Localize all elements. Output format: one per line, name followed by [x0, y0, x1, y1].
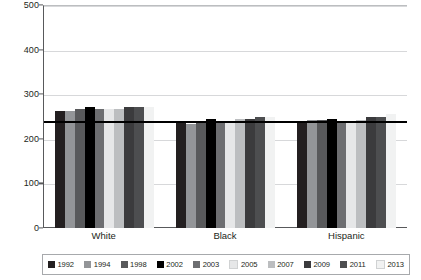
- x-axis-label-hispanic: Hispanic: [286, 230, 407, 241]
- x-axis-labels: WhiteBlackHispanic: [43, 230, 407, 241]
- bar-white-1998[interactable]: [75, 109, 85, 228]
- legend-label-1994: 1994: [94, 260, 111, 269]
- bar-white-1992[interactable]: [55, 111, 65, 228]
- legend-swatch-2005: [229, 260, 238, 269]
- plot-area: [43, 5, 407, 228]
- plot-inner: [44, 6, 407, 228]
- y-tick-label-200: 200: [0, 134, 39, 144]
- y-tick-label-500: 500: [0, 0, 39, 10]
- bar-hispanic-2007[interactable]: [356, 120, 366, 228]
- bar-hispanic-2009[interactable]: [366, 117, 376, 228]
- bar-white-2009[interactable]: [124, 107, 134, 228]
- legend-swatch-2002: [157, 261, 164, 268]
- bar-black-1994[interactable]: [186, 124, 196, 228]
- bar-black-2007[interactable]: [235, 119, 245, 228]
- y-tick-label-100: 100: [0, 178, 39, 188]
- legend-swatch-2007: [268, 261, 275, 268]
- bars-wrap: [297, 6, 396, 228]
- legend-swatch-2003: [193, 261, 200, 268]
- legend-item-2009[interactable]: 2009: [304, 260, 330, 269]
- bar-white-2003[interactable]: [95, 109, 105, 228]
- bars-wrap: [176, 6, 275, 228]
- bar-hispanic-1992[interactable]: [297, 123, 307, 228]
- bar-black-1998[interactable]: [196, 121, 206, 228]
- chart-title: [0, 0, 421, 4]
- x-axis-label-black: Black: [164, 230, 285, 241]
- legend-swatch-1992: [48, 261, 55, 268]
- bar-white-1994[interactable]: [65, 111, 75, 228]
- bar-white-2002[interactable]: [85, 107, 95, 228]
- legend-label-2005: 2005: [241, 260, 258, 269]
- legend-item-2005[interactable]: 2005: [229, 260, 257, 269]
- y-axis-title-wrap: Scale score (basic 243–280): [0, 5, 16, 228]
- y-tick-label-400: 400: [0, 45, 39, 55]
- reference-line-basic: [44, 121, 407, 123]
- y-tick-label-0: 0: [0, 223, 39, 233]
- legend-label-2011: 2011: [350, 260, 366, 269]
- legend-swatch-2011: [340, 261, 347, 268]
- bar-hispanic-2005[interactable]: [346, 121, 356, 228]
- bar-black-1992[interactable]: [176, 123, 186, 228]
- legend-item-2013[interactable]: 2013: [376, 260, 404, 269]
- bar-white-2011[interactable]: [134, 107, 144, 228]
- bar-white-2013[interactable]: [144, 107, 154, 228]
- legend-label-2009: 2009: [313, 260, 330, 269]
- bar-hispanic-2002[interactable]: [327, 119, 337, 228]
- bar-groups: [44, 6, 407, 228]
- bar-white-2007[interactable]: [114, 109, 124, 228]
- legend-item-1994[interactable]: 1994: [84, 260, 110, 269]
- legend-label-2013: 2013: [387, 260, 404, 269]
- bar-group-black: [165, 6, 286, 228]
- bar-hispanic-2013[interactable]: [386, 114, 396, 228]
- legend-label-2002: 2002: [166, 260, 183, 269]
- legend-label-1992: 1992: [58, 260, 75, 269]
- legend-item-2011[interactable]: 2011: [340, 260, 365, 269]
- bar-hispanic-1998[interactable]: [317, 120, 327, 228]
- bar-group-hispanic: [286, 6, 407, 228]
- legend-label-1998: 1998: [130, 260, 147, 269]
- bar-group-white: [44, 6, 165, 228]
- legend-item-2003[interactable]: 2003: [193, 260, 219, 269]
- legend-label-2003: 2003: [203, 260, 220, 269]
- legend-swatch-1998: [121, 261, 128, 268]
- bar-black-2013[interactable]: [265, 117, 275, 228]
- chart-root: Scale score (basic 243–280) 010020030040…: [0, 0, 421, 280]
- y-tick-label-300: 300: [0, 89, 39, 99]
- legend-item-1992[interactable]: 1992: [48, 260, 74, 269]
- legend-swatch-1994: [84, 261, 91, 268]
- bar-white-2005[interactable]: [104, 109, 114, 228]
- x-axis-label-white: White: [43, 230, 164, 241]
- bar-black-2011[interactable]: [255, 117, 265, 228]
- bar-hispanic-2011[interactable]: [376, 117, 386, 228]
- legend-swatch-2009: [304, 261, 311, 268]
- legend-item-1998[interactable]: 1998: [121, 260, 147, 269]
- bar-black-2005[interactable]: [225, 121, 235, 228]
- legend-swatch-2013: [376, 260, 385, 269]
- bar-black-2002[interactable]: [206, 119, 216, 228]
- bar-black-2009[interactable]: [245, 119, 255, 228]
- bar-hispanic-1994[interactable]: [307, 120, 317, 228]
- legend-item-2007[interactable]: 2007: [268, 260, 294, 269]
- legend: 1992199419982002200320052007200920112013: [42, 254, 410, 275]
- legend-label-2007: 2007: [277, 260, 294, 269]
- bar-hispanic-2003[interactable]: [337, 121, 347, 228]
- bar-black-2003[interactable]: [216, 121, 226, 228]
- bars-wrap: [55, 6, 154, 228]
- legend-item-2002[interactable]: 2002: [157, 260, 183, 269]
